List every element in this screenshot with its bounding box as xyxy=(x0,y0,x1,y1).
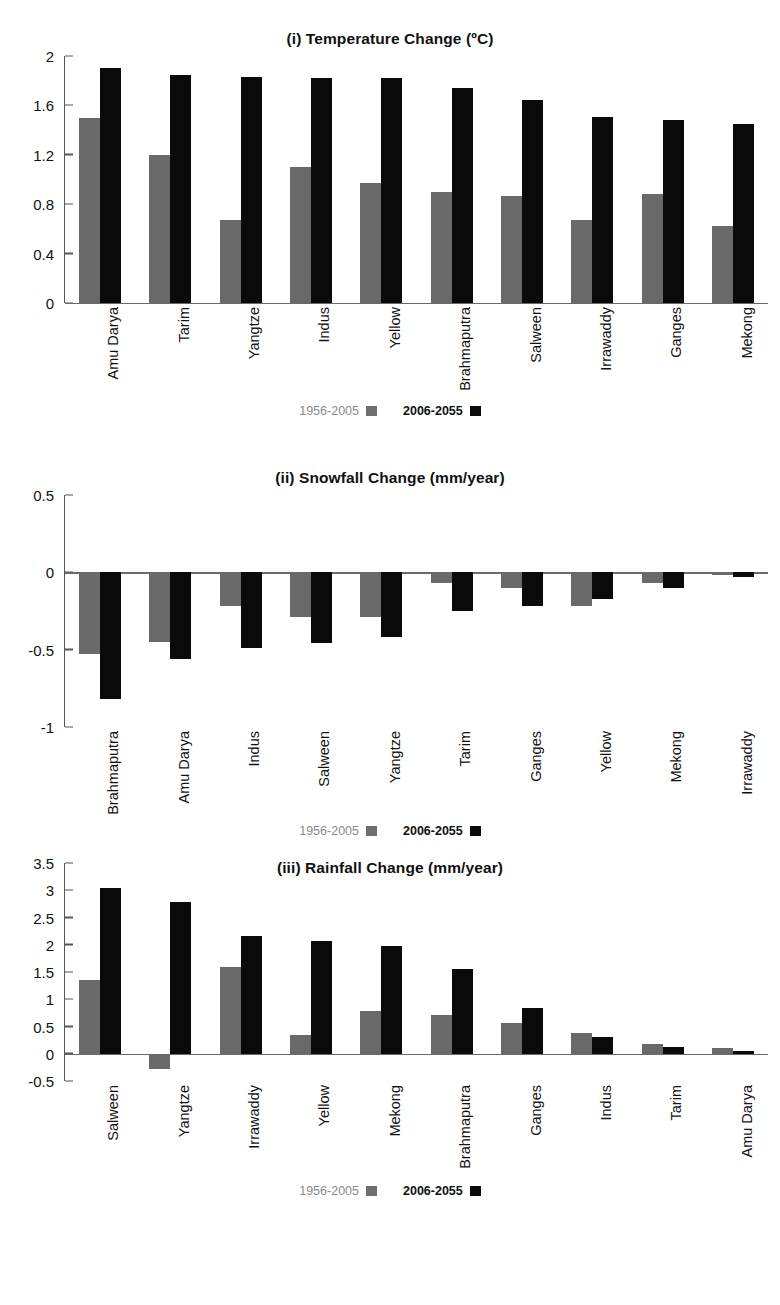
x-axis-label-cell: Tarim xyxy=(134,303,204,413)
y-axis-tick-label: 0.8 xyxy=(33,197,65,212)
bar-future xyxy=(381,572,402,637)
x-axis-label-cell: Brahmaputra xyxy=(416,303,486,413)
bar-group xyxy=(416,495,486,727)
bar-historical xyxy=(360,1011,381,1054)
bar-group xyxy=(276,495,346,727)
x-axis-label-cell: Mekong xyxy=(627,727,697,837)
x-axis-label-cell: Yangtze xyxy=(205,303,275,413)
panel-temperature-change: (i) Temperature Change (ºC) 00.40.81.21.… xyxy=(0,0,780,455)
y-axis-tick-label: 1 xyxy=(46,992,65,1007)
bar-historical xyxy=(501,1023,522,1054)
panel-title-snowfall: (ii) Snowfall Change (mm/year) xyxy=(0,455,780,487)
bar-future xyxy=(381,946,402,1054)
bar-historical xyxy=(571,1033,592,1054)
x-axis-label-cell: Amu Darya xyxy=(64,303,134,413)
bar-group xyxy=(206,863,276,1081)
x-axis-label: Irrawaddy xyxy=(599,307,614,371)
y-axis-tick-label: 2 xyxy=(46,937,65,952)
bar-historical xyxy=(571,572,592,606)
bar-group xyxy=(557,56,627,303)
x-axis-label-cell: Salween xyxy=(64,1081,134,1191)
x-axis-label-cell: Tarim xyxy=(416,727,486,837)
y-axis-tick-label: 3 xyxy=(46,883,65,898)
bar-future xyxy=(592,1037,613,1054)
y-axis-tick-label: 0.5 xyxy=(33,488,65,503)
bar-historical xyxy=(290,572,311,617)
bar-future xyxy=(522,100,543,303)
x-axis-label-cell: Indus xyxy=(557,1081,627,1191)
x-axis-label: Yangtze xyxy=(177,1085,192,1137)
x-axis-label-cell: Yellow xyxy=(275,1081,345,1191)
bar-group xyxy=(487,495,557,727)
bar-series-container xyxy=(65,56,768,303)
bar-group xyxy=(557,495,627,727)
bar-historical xyxy=(290,1035,311,1054)
y-axis-tick-label: 0 xyxy=(46,1046,65,1061)
bar-group xyxy=(65,56,135,303)
x-axis-label: Mekong xyxy=(740,307,755,359)
bar-group xyxy=(698,56,768,303)
x-axis-label: Yellow xyxy=(599,731,614,772)
x-axis-label: Salween xyxy=(106,1085,121,1141)
bar-historical xyxy=(79,572,100,654)
bar-group xyxy=(627,863,697,1081)
bar-group xyxy=(416,56,486,303)
x-axis-label-cell: Ganges xyxy=(486,1081,556,1191)
bar-future xyxy=(100,888,121,1054)
bar-historical xyxy=(642,1044,663,1053)
bar-future xyxy=(311,78,332,303)
y-axis-tick-label: 2 xyxy=(46,49,65,64)
bar-future xyxy=(733,572,754,577)
bar-group xyxy=(346,56,416,303)
x-axis-label-cell: Indus xyxy=(205,727,275,837)
bar-future xyxy=(663,572,684,587)
bar-historical xyxy=(149,1054,170,1069)
bar-group xyxy=(557,863,627,1081)
x-axis-label: Yangtze xyxy=(388,731,403,783)
x-axis-label: Salween xyxy=(529,307,544,363)
x-axis-label: Yellow xyxy=(388,307,403,348)
plot-area-snowfall: 0.50-0.5-1 xyxy=(0,495,780,727)
bar-historical xyxy=(220,220,241,303)
plot-area-rainfall: 3.532.521.510.50-0.5 xyxy=(0,863,780,1081)
x-axis-label-cell: Mekong xyxy=(346,1081,416,1191)
bar-historical xyxy=(79,980,100,1054)
bar-historical xyxy=(149,572,170,642)
bar-historical xyxy=(501,572,522,587)
bar-group xyxy=(346,495,416,727)
x-axis-label: Yangtze xyxy=(247,307,262,359)
bar-historical xyxy=(290,167,311,303)
x-axis-label-cell: Yangtze xyxy=(134,1081,204,1191)
x-axis-label-cell: Yellow xyxy=(346,303,416,413)
x-axis-label: Indus xyxy=(317,307,332,342)
bar-future xyxy=(522,1008,543,1054)
y-axis-tick-label: -1 xyxy=(41,720,65,735)
bar-group xyxy=(698,863,768,1081)
x-axis-label: Ganges xyxy=(669,307,684,358)
bar-historical xyxy=(712,572,733,575)
bar-future xyxy=(733,1051,754,1054)
x-axis-label-cell: Mekong xyxy=(698,303,768,413)
bar-group xyxy=(65,863,135,1081)
x-axis-label: Amu Darya xyxy=(740,1085,755,1158)
x-axis-label: Mekong xyxy=(388,1085,403,1137)
bar-group xyxy=(276,56,346,303)
y-axis-tick-label: 3.5 xyxy=(33,856,65,871)
bar-historical xyxy=(149,155,170,303)
bar-future xyxy=(241,572,262,648)
plot-area-temperature: 00.40.81.21.62 xyxy=(0,56,780,303)
x-axis-label-cell: Salween xyxy=(275,727,345,837)
y-axis-tick-label: 1.6 xyxy=(33,98,65,113)
x-axis-label: Irrawaddy xyxy=(247,1085,262,1149)
x-axis-label: Mekong xyxy=(669,731,684,783)
x-axis-label: Irrawaddy xyxy=(740,731,755,795)
x-axis-label-cell: Salween xyxy=(486,303,556,413)
bar-historical xyxy=(360,183,381,303)
panel-rainfall-change: (iii) Rainfall Change (mm/year) 3.532.52… xyxy=(0,845,780,1285)
bar-group xyxy=(627,495,697,727)
bar-historical xyxy=(79,118,100,303)
x-axis-label-cell: Yellow xyxy=(557,727,627,837)
y-axis-tick-label: 0 xyxy=(46,296,65,311)
bar-future xyxy=(522,572,543,606)
bar-group xyxy=(487,863,557,1081)
